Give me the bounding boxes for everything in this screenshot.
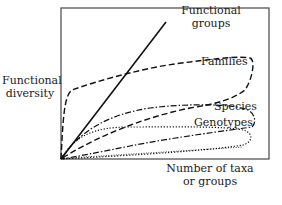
y-axis-label-line1: Functional [2,74,58,87]
x-axis-label-line2: or groups [150,175,270,188]
y-axis-label: Functional diversity [2,74,58,100]
functional-groups-label-line2: groups [178,17,244,30]
functional-groups-line [61,22,166,159]
x-axis-label-line1: Number of taxa [150,162,270,175]
functional-groups-label: Functional groups [178,4,244,30]
genotypes-label: Genotypes [194,116,253,129]
y-axis-label-line2: diversity [2,87,58,100]
x-axis-baseline [61,147,243,159]
x-axis-label: Number of taxa or groups [150,162,270,188]
species-label: Species [214,100,257,113]
functional-groups-label-line1: Functional [178,4,244,17]
families-label: Families [201,55,248,68]
